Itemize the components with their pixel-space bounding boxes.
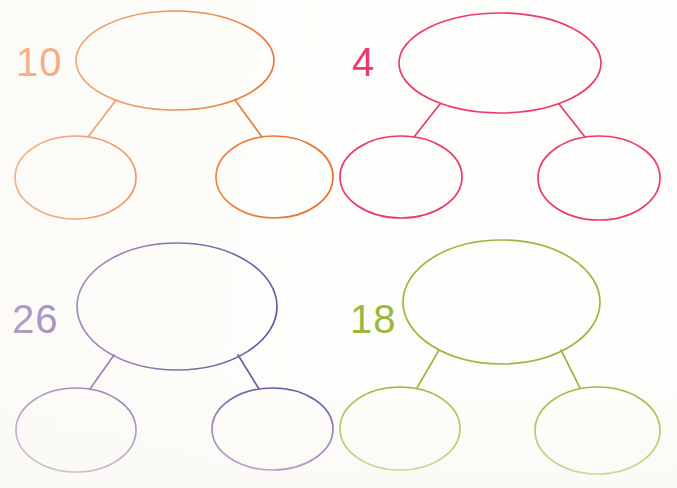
child-bubble[interactable] (212, 388, 333, 470)
parent-bubble[interactable] (403, 240, 600, 364)
bond-connector-line (88, 100, 116, 137)
worksheet-page: 1042618 (0, 0, 677, 488)
bond-connector-line (90, 355, 114, 389)
number-bond-canvas: 1042618 (0, 0, 677, 488)
number-bond-group: 26 (12, 243, 333, 472)
child-bubble[interactable] (16, 388, 136, 472)
child-bubble[interactable] (538, 136, 660, 220)
bond-connector-line (235, 100, 262, 137)
child-bubble[interactable] (340, 387, 460, 470)
bond-total-label: 10 (16, 40, 63, 84)
bond-connector-line (238, 355, 259, 389)
child-bubble[interactable] (535, 387, 660, 474)
child-bubble[interactable] (15, 136, 136, 219)
bond-total-label: 26 (12, 297, 59, 341)
bond-total-label: 18 (350, 297, 397, 341)
bond-connector-line (414, 104, 440, 137)
child-bubble[interactable] (340, 136, 462, 218)
parent-bubble[interactable] (76, 11, 274, 110)
bond-connector-line (417, 350, 439, 388)
number-bond-group: 4 (340, 13, 660, 220)
bond-total-label: 4 (352, 40, 375, 84)
parent-bubble[interactable] (77, 243, 277, 370)
parent-bubble[interactable] (399, 13, 601, 113)
bond-connector-line (561, 350, 580, 388)
number-bond-groups: 1042618 (12, 11, 660, 474)
bond-connector-line (559, 104, 585, 137)
number-bond-group: 10 (15, 11, 333, 219)
number-bond-group: 18 (340, 240, 660, 474)
child-bubble[interactable] (216, 136, 333, 218)
